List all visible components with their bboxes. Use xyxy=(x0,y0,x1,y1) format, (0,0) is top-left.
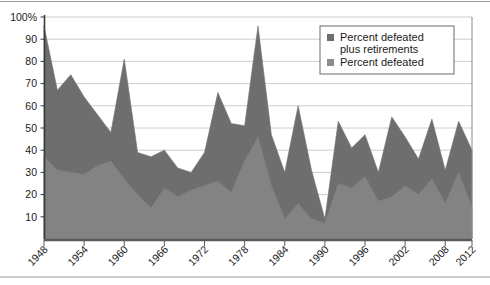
x-tick-label: 1948 xyxy=(25,243,50,268)
x-axis-ticks: 1948195419601966197219781984199019962002… xyxy=(25,240,478,268)
x-tick-label: 1954 xyxy=(65,243,90,268)
legend-swatch-percent-defeated-plus-retirements xyxy=(327,34,334,41)
y-tick-label: 50 xyxy=(25,122,37,134)
legend-label-percent-defeated: Percent defeated xyxy=(340,56,424,68)
chart-legend[interactable]: Percent defeated plus retirements Percen… xyxy=(320,26,454,74)
y-tick-label: 20 xyxy=(25,188,37,200)
y-tick-label: 30 xyxy=(25,166,37,178)
x-tick-label: 1966 xyxy=(145,243,170,268)
x-tick-label: 2012 xyxy=(453,243,478,268)
x-tick-label: 1984 xyxy=(266,243,291,268)
x-tick-label: 1972 xyxy=(185,243,210,268)
x-tick-label: 1990 xyxy=(306,243,331,268)
x-tick-label: 1960 xyxy=(105,243,130,268)
y-tick-label: 10 xyxy=(25,211,37,223)
y-tick-label: 100% xyxy=(10,11,37,23)
x-tick-label: 1978 xyxy=(226,243,251,268)
y-tick-label: 90 xyxy=(25,33,37,45)
legend-label-defeated-plus-retirements-line2: plus retirements xyxy=(340,43,419,55)
y-tick-label: 80 xyxy=(25,55,37,67)
x-tick-label: 2008 xyxy=(426,243,451,268)
x-tick-label: 2002 xyxy=(386,243,411,268)
y-tick-label: 70 xyxy=(25,77,37,89)
area-chart: 100%908070605040302010 19481954196019661… xyxy=(0,0,490,285)
y-tick-label: 40 xyxy=(25,144,37,156)
x-tick-label: 1996 xyxy=(346,243,371,268)
chart-container: 100%908070605040302010 19481954196019661… xyxy=(0,0,490,285)
legend-label-defeated-plus-retirements-line1: Percent defeated xyxy=(340,31,424,43)
legend-swatch-percent-defeated xyxy=(327,59,334,66)
y-tick-label: 60 xyxy=(25,100,37,112)
y-axis-ticks: 100%908070605040302010 xyxy=(10,11,44,223)
